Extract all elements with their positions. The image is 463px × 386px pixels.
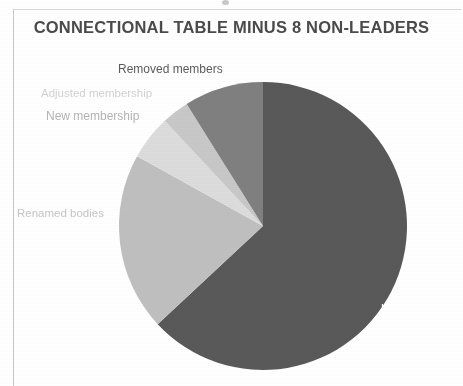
pie-label-new-membership: New membership [46,109,139,123]
pie-label-adjusted-membership: Adjusted membership [41,87,152,99]
pie-label-removed-members: Removed members [118,62,223,76]
pie-label-unchanged: Unchanged [381,302,440,314]
pie-chart: Removed members Adjusted membership New … [0,0,463,386]
pie-label-renamed-bodies: Renamed bodies [17,207,104,219]
document-page: CONNECTIONAL TABLE MINUS 8 NON-LEADERS R… [0,0,463,386]
pie-chart-svg [0,0,463,386]
